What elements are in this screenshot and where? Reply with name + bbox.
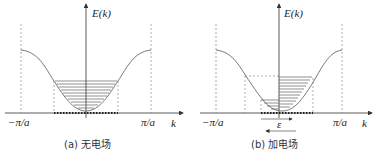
left-tick-label: −π/a <box>202 116 224 128</box>
panel-b: ε E(k) k −π/a π/a (b) 加电场 <box>200 4 372 150</box>
electric-field-label: ε <box>277 118 282 130</box>
panel-a: E(k) k −π/a π/a (a) 无电场 <box>5 4 183 150</box>
caption-b: (b) 加电场 <box>251 138 298 150</box>
k-axis-label: k <box>171 117 177 129</box>
right-tick-label: π/a <box>333 116 348 128</box>
energy-axis-label: E(k) <box>91 7 111 20</box>
caption-a: (a) 无电场 <box>64 138 111 150</box>
right-tick-label: π/a <box>141 116 156 128</box>
left-tick-label: −π/a <box>8 116 30 128</box>
energy-axis-label: E(k) <box>283 7 303 20</box>
diagram-canvas: E(k) k −π/a π/a (a) 无电场 <box>0 0 376 159</box>
k-axis-label: k <box>362 117 368 129</box>
